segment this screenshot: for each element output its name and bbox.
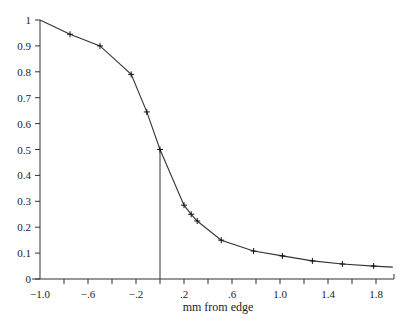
plus-marker-icon — [371, 263, 377, 269]
y-tick-label: 0 — [26, 273, 32, 285]
y-tick-label: 0.5 — [17, 144, 31, 156]
x-tick-label: −.2 — [129, 288, 143, 300]
line-chart: 00.10.20.30.40.50.60.70.80.91−1.0−.6−.2.… — [0, 0, 410, 329]
data-series — [40, 20, 393, 269]
y-tick-label: 0.8 — [17, 66, 31, 78]
y-tick-label: 0.3 — [17, 195, 31, 207]
plus-marker-icon — [309, 258, 315, 264]
x-tick-label: −1.0 — [30, 288, 50, 300]
x-axis-title: mm from edge — [183, 300, 254, 314]
plus-marker-icon — [144, 109, 150, 115]
y-tick-label: 0.2 — [17, 221, 31, 233]
x-tick-label: 1.4 — [321, 288, 335, 300]
y-tick-label: 0.7 — [17, 92, 31, 104]
plus-marker-icon — [339, 261, 345, 267]
axes: 00.10.20.30.40.50.60.70.80.91−1.0−.6−.2.… — [17, 14, 394, 300]
plus-marker-icon — [67, 31, 73, 37]
y-tick-label: 1 — [26, 14, 32, 26]
x-tick-label: 1.8 — [369, 288, 383, 300]
series-line — [40, 20, 393, 267]
plus-marker-icon — [279, 253, 285, 259]
y-tick-label: 0.6 — [17, 118, 31, 130]
y-tick-label: 0.9 — [17, 40, 31, 52]
y-tick-label: 0.4 — [17, 169, 31, 181]
y-tick-label: 0.1 — [17, 247, 31, 259]
plus-marker-icon — [157, 147, 163, 153]
x-tick-label: .2 — [180, 288, 188, 300]
x-tick-label: −.6 — [81, 288, 96, 300]
plus-marker-icon — [251, 248, 257, 254]
x-tick-label: .6 — [228, 288, 237, 300]
x-tick-label: 1.0 — [273, 288, 287, 300]
